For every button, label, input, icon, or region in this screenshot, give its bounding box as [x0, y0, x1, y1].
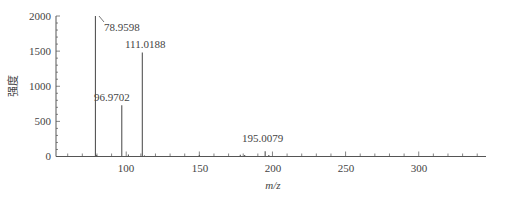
- peak-label-195: 195.0079: [242, 132, 284, 144]
- y-tick-1500: 1500: [29, 45, 52, 57]
- x-tick-200: 200: [265, 162, 282, 174]
- peak-label-97: 96.9702: [94, 91, 130, 103]
- y-axis-title: 强度: [6, 75, 19, 97]
- x-tick-300: 300: [411, 162, 428, 174]
- mass-spectrum-chart: 0 500 1000 1500 2000 100 150 200 250 300…: [0, 0, 506, 197]
- peak-label-78: 78.9598: [104, 21, 140, 33]
- peak-label-111: 111.0188: [125, 38, 166, 50]
- x-tick-150: 150: [192, 162, 209, 174]
- x-tick-250: 250: [338, 162, 355, 174]
- x-tick-100: 100: [118, 162, 135, 174]
- y-tick-500: 500: [35, 115, 52, 127]
- y-tick-0: 0: [46, 150, 52, 162]
- y-tick-1000: 1000: [29, 80, 52, 92]
- x-axis-title: m/z: [265, 179, 281, 191]
- y-tick-2000: 2000: [29, 10, 52, 22]
